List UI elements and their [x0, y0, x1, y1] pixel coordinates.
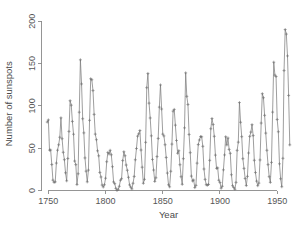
y-axis-title: Number of sunspots	[3, 61, 14, 146]
x-tick-label: 1900	[210, 196, 230, 206]
chart-canvas: 050100150200 17501800185019001950 Year N…	[0, 0, 306, 234]
x-tick-label: 1750	[38, 196, 58, 206]
x-tick-label: 1850	[153, 196, 173, 206]
x-tick-label: 1950	[267, 196, 287, 206]
y-tick-label: 150	[27, 56, 37, 71]
x-tick-label: 1800	[96, 196, 116, 206]
y-tick-label: 100	[27, 98, 37, 113]
y-tick-label: 200	[27, 14, 37, 29]
y-tick-label: 50	[27, 143, 37, 153]
x-axis-title: Year	[159, 209, 178, 220]
y-tick-label: 0	[27, 188, 37, 193]
sunspot-chart-figure: 050100150200 17501800185019001950 Year N…	[0, 0, 306, 234]
